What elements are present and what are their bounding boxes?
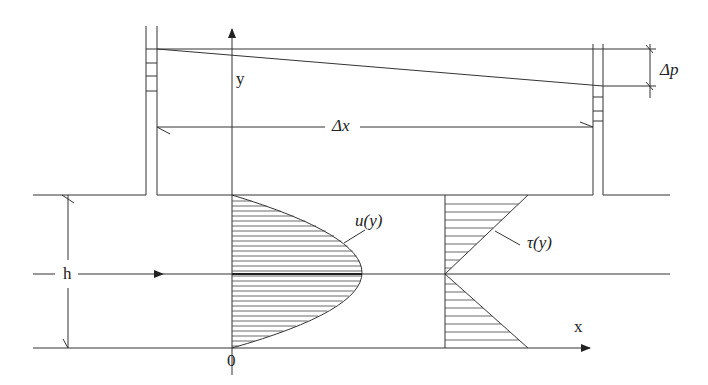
pressure-head-lines <box>146 49 656 86</box>
delta-x-dimension <box>157 122 593 134</box>
shear-profile-label: τ(y) <box>527 234 552 251</box>
velocity-profile-label: u(y) <box>355 212 382 229</box>
flow-diagram <box>0 0 708 385</box>
y-axis-label: y <box>236 70 245 87</box>
shear-stress-profile <box>445 195 528 348</box>
delta-x-label: Δx <box>332 117 350 134</box>
velocity-profile <box>232 195 365 348</box>
delta-p-dimension <box>646 44 653 98</box>
height-label: h <box>63 265 72 282</box>
delta-p-label: Δp <box>660 61 678 78</box>
x-axis-label: x <box>574 318 583 335</box>
right-piezometer-tube <box>593 44 603 195</box>
left-piezometer-tube <box>146 26 157 195</box>
origin-label: 0 <box>227 352 236 369</box>
